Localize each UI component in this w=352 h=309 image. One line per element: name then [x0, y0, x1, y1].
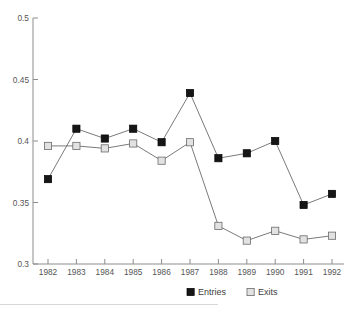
legend-label-exits: Exits: [258, 287, 278, 297]
data-point-marker-exits: [73, 142, 80, 149]
x-tick-label: 1991: [294, 267, 313, 277]
data-series-group: [44, 89, 335, 244]
data-point-marker-exits: [186, 139, 193, 146]
data-point-marker-exits: [328, 232, 335, 239]
data-point-marker-exits: [243, 237, 250, 244]
data-point-marker-exits: [130, 140, 137, 147]
y-tick-label: 0.4: [17, 136, 29, 146]
x-tick-label: 1984: [96, 267, 115, 277]
x-tick-label: 1983: [67, 267, 86, 277]
data-point-marker-entries: [158, 139, 165, 146]
x-tick-label: 1989: [238, 267, 257, 277]
data-point-marker-entries: [328, 190, 335, 197]
data-point-marker-exits: [215, 222, 222, 229]
x-tick-label: 1982: [39, 267, 58, 277]
legend-swatch-exits: [247, 288, 254, 295]
x-tick-label: 1992: [323, 267, 342, 277]
x-tick-label: 1986: [152, 267, 171, 277]
x-tick-label: 1988: [209, 267, 228, 277]
data-point-marker-entries: [73, 125, 80, 132]
data-point-marker-exits: [101, 145, 108, 152]
series-line-entries: [48, 93, 332, 205]
data-point-marker-exits: [44, 142, 51, 149]
data-point-marker-entries: [186, 89, 193, 96]
data-point-marker-exits: [272, 227, 279, 234]
data-point-marker-entries: [215, 155, 222, 162]
legend-label-entries: Entries: [198, 287, 227, 297]
series-line-exits: [48, 142, 332, 240]
chart-plot-area: 0.30.350.40.450.5 1982198319841985198619…: [0, 0, 352, 309]
x-tick-label: 1985: [124, 267, 143, 277]
scan-artifact-line: [0, 304, 218, 305]
data-point-marker-entries: [44, 176, 51, 183]
y-tick-label: 0.35: [13, 198, 30, 208]
x-tick-label: 1987: [181, 267, 200, 277]
y-axis: 0.30.350.40.450.5: [13, 13, 38, 269]
data-point-marker-entries: [272, 137, 279, 144]
data-point-marker-exits: [300, 236, 307, 243]
x-tick-label: 1990: [266, 267, 285, 277]
data-point-marker-entries: [243, 150, 250, 157]
data-point-marker-exits: [158, 157, 165, 164]
data-point-marker-entries: [101, 135, 108, 142]
y-tick-label: 0.3: [17, 259, 29, 269]
legend-swatch-entries: [187, 288, 194, 295]
data-point-marker-entries: [300, 201, 307, 208]
y-tick-label: 0.5: [17, 13, 29, 23]
data-point-marker-entries: [130, 125, 137, 132]
x-axis: 1982198319841985198619871988198919901991…: [33, 259, 344, 277]
y-tick-label: 0.45: [13, 75, 30, 85]
line-chart: 0.30.350.40.450.5 1982198319841985198619…: [0, 0, 352, 309]
chart-legend: EntriesExits: [187, 287, 278, 297]
